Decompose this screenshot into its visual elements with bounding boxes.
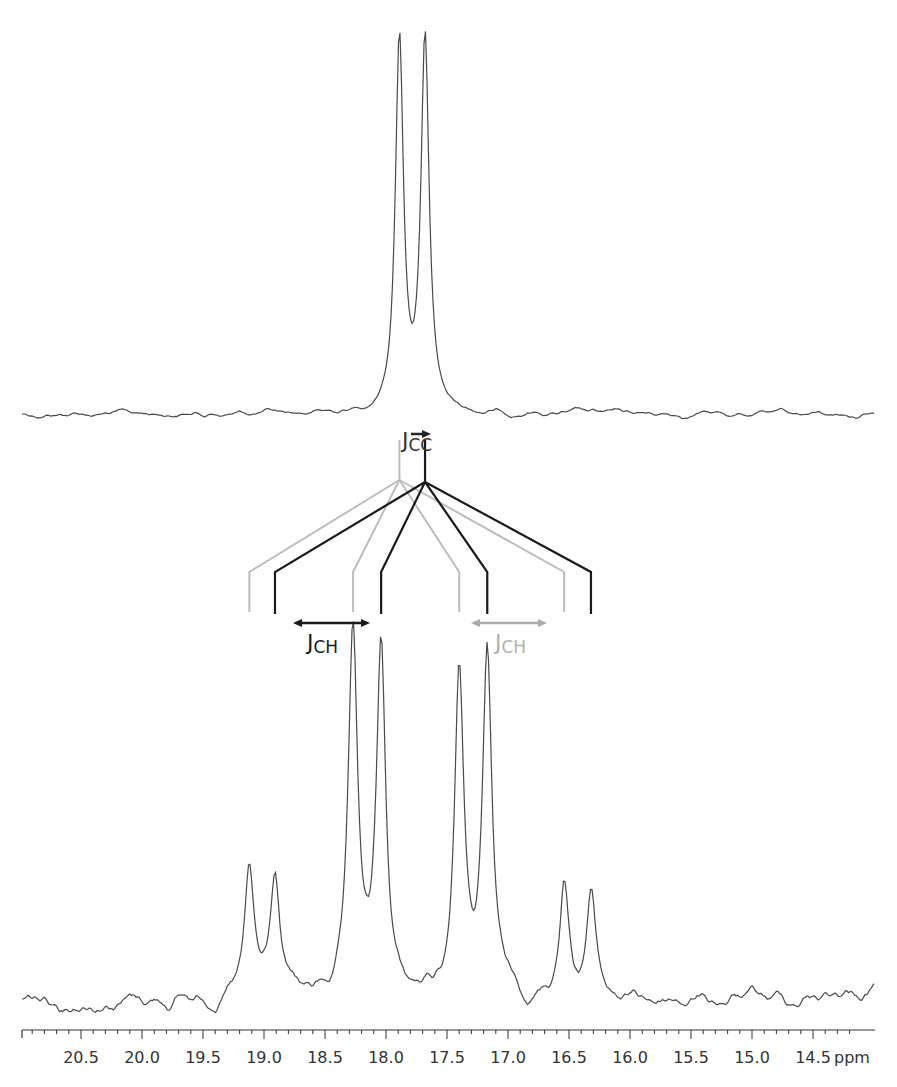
- jch-right-arrow-icon: [471, 619, 547, 627]
- axis-tick-label: 19.0: [246, 1048, 282, 1067]
- axis-tick-label: 17.0: [490, 1048, 526, 1067]
- axis-tick-label: 18.0: [368, 1048, 404, 1067]
- ppm-axis: 20.520.019.519.018.518.017.517.016.516.0…: [22, 1030, 875, 1067]
- axis-tick-label: 19.5: [185, 1048, 221, 1067]
- bottom-spectrum-line: [22, 621, 874, 1012]
- top-spectrum-line: [22, 31, 874, 418]
- axis-tick-label: 14.5: [795, 1048, 831, 1067]
- top-spectrum-trace: [22, 31, 874, 418]
- splitting-tree-diagram: [249, 430, 591, 627]
- jch-right-label: JCH: [493, 630, 526, 657]
- axis-tick-label: 16.0: [612, 1048, 648, 1067]
- jcc-label: JCC: [400, 428, 432, 455]
- axis-tick-label: 20.5: [63, 1048, 99, 1067]
- axis-tick-label: 16.5: [551, 1048, 587, 1067]
- axis-tick-label: 18.5: [307, 1048, 343, 1067]
- axis-tick-label: 20.0: [124, 1048, 160, 1067]
- axis-tick-label: 17.5: [429, 1048, 465, 1067]
- jch-left-label: JCH: [305, 630, 338, 657]
- bottom-spectrum-trace: [22, 621, 874, 1012]
- axis-unit-label: ppm: [834, 1048, 870, 1067]
- jch-left-arrow-icon: [293, 619, 370, 627]
- gray-tree-branch: [249, 440, 564, 612]
- axis-tick-label: 15.0: [734, 1048, 770, 1067]
- nmr-figure: 20.520.019.519.018.518.017.517.016.516.0…: [0, 0, 897, 1087]
- axis-tick-label: 15.5: [673, 1048, 709, 1067]
